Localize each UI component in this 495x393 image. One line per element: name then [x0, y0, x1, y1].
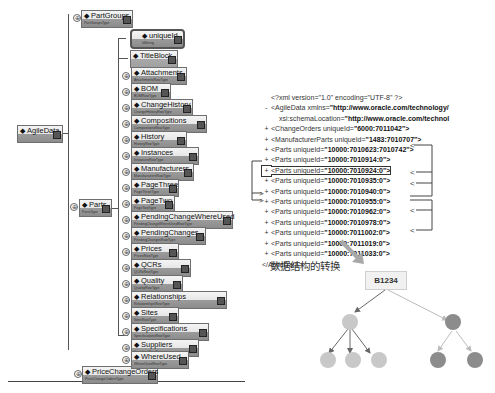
expand-icon[interactable]: ⊕ [122, 296, 130, 304]
diamond-icon: ◆ [134, 133, 139, 140]
xml-reference-arrows: < < < < < > > [250, 140, 495, 240]
xml-line: xsi:schemaLocation="http://www.oracle.co… [262, 114, 449, 124]
tree-leaf-light[interactable] [345, 352, 361, 368]
element-type-icon [184, 169, 192, 177]
diamond-icon: ◆ [134, 101, 139, 108]
element-type-icon [161, 89, 169, 97]
diamond-icon: ◆ [134, 325, 139, 332]
element-type-icon [189, 345, 197, 353]
svg-text:<: < [410, 206, 415, 215]
tree-node-light[interactable] [342, 314, 358, 330]
tree-leaf-dark[interactable] [467, 352, 483, 368]
expand-icon[interactable]: ⊕ [122, 120, 130, 128]
expand-icon[interactable]: ⊕ [122, 200, 130, 208]
expand-icon[interactable]: ⊕ [122, 136, 130, 144]
tree-leaf-light[interactable] [371, 352, 387, 368]
expand-icon[interactable]: ⊕ [74, 370, 82, 378]
diamond-icon: ◆ [134, 261, 139, 268]
node-agiledata[interactable]: ◆AgileData [17, 125, 63, 143]
element-type-icon [174, 36, 182, 44]
node-type: PriceChangeOrdersType [85, 377, 147, 382]
diamond-icon: ◆ [134, 149, 139, 156]
element-type-icon [217, 297, 225, 305]
svg-text:<: < [410, 141, 415, 150]
collapse-toggle[interactable]: - [262, 103, 271, 113]
node-type: PartGroupsType [84, 21, 122, 26]
expand-icon[interactable]: ⊕ [73, 14, 81, 22]
element-type-icon [223, 217, 231, 225]
element-type-icon [169, 249, 177, 257]
diamond-icon: ◆ [134, 69, 139, 76]
xml-line[interactable]: -<AgileData xmlns="http://www.oracle.com… [262, 103, 449, 113]
element-type-icon [102, 205, 110, 213]
node-label: Manufacturers [141, 164, 189, 173]
node-label: Instances [141, 148, 173, 157]
node-label: Specifications [141, 324, 187, 333]
diamond-icon: ◆ [134, 213, 139, 220]
expand-icon[interactable]: ⊕ [122, 312, 130, 320]
node-partgroups[interactable]: ◆PartGroups PartGroupsType [81, 10, 133, 28]
tree-leaf-light[interactable] [320, 352, 336, 368]
parts-connector [112, 208, 118, 209]
expand-icon[interactable]: ⊕ [122, 280, 130, 288]
expand-icon[interactable]: ⊕ [122, 104, 130, 112]
tree-leaf-dark[interactable] [430, 352, 446, 368]
element-type-icon [199, 329, 207, 337]
node-type: PartsType [82, 210, 101, 215]
node-whereused[interactable]: ◆WhereUsed WhereUsedRowType [131, 351, 189, 369]
svg-text:<: < [410, 168, 415, 177]
element-type-icon [183, 105, 191, 113]
element-type-icon [177, 73, 185, 81]
node-label: PendingChangeWhereUsed [141, 212, 234, 221]
expand-icon[interactable]: ⊕ [70, 203, 78, 211]
expand-icon[interactable]: ⊕ [122, 72, 130, 80]
expand-icon[interactable]: ⊕ [122, 184, 130, 192]
element-type-icon [168, 56, 176, 64]
expand-toggle[interactable]: + [262, 239, 271, 249]
diamond-icon: ◆ [134, 353, 139, 360]
diamond-icon: ◆ [134, 245, 139, 252]
diamond-icon: ◆ [85, 368, 90, 375]
expand-icon[interactable]: ⊕ [122, 248, 130, 256]
diamond-icon: ◆ [134, 341, 139, 348]
diamond-icon: ◆ [20, 127, 25, 134]
node-uniqueid[interactable]: ◆uniqueId IdString [130, 29, 185, 49]
transform-arrow-icon [338, 238, 368, 268]
expand-icon[interactable]: ⊕ [122, 344, 130, 352]
diamond-icon: ◆ [142, 32, 147, 39]
tree-edges [310, 285, 495, 393]
node-parts[interactable]: ◆Parts PartsType [79, 199, 112, 217]
expand-icon[interactable]: ⊕ [122, 264, 130, 272]
xml-line: <?xml version="1.0" encoding="UTF-8" ?> [262, 93, 449, 103]
node-label: PendingChanges [141, 228, 199, 237]
expand-icon[interactable]: ⊕ [122, 88, 130, 96]
node-type: WhereUsedRowType [134, 362, 178, 367]
transform-caption: 数据结构的转换 [270, 258, 340, 273]
diamond-icon: ◆ [134, 165, 139, 172]
tree-node-dark[interactable] [445, 314, 461, 330]
node-titleblock[interactable]: ◆TitleBlock [130, 50, 178, 68]
element-type-icon [173, 281, 181, 289]
element-type-icon [53, 131, 61, 139]
expand-icon[interactable]: ⊕ [122, 356, 130, 364]
expand-icon[interactable]: ⊕ [122, 328, 130, 336]
expand-icon[interactable]: ⊕ [122, 216, 130, 224]
expand-toggle[interactable]: + [262, 124, 271, 134]
node-label: QCRs [141, 260, 161, 269]
element-type-icon [179, 357, 187, 365]
xml-line[interactable]: +<ChangeOrders uniqueId="6000:7011042"> [262, 124, 449, 134]
node-label: History [141, 132, 164, 141]
node-type: IdString [142, 41, 173, 46]
diamond-icon: ◆ [82, 201, 87, 208]
node-label: BOM [141, 84, 158, 93]
node-label: Relationships [141, 292, 186, 301]
expand-icon[interactable]: ⊕ [122, 152, 130, 160]
expand-icon[interactable]: ⊕ [122, 168, 130, 176]
node-label: Sites [141, 308, 158, 317]
expand-icon[interactable]: ⊕ [122, 232, 130, 240]
parts-branch-line [118, 38, 119, 335]
tree-trunk-line [68, 14, 69, 350]
svg-text:<: < [410, 226, 415, 235]
diamond-icon: ◆ [134, 309, 139, 316]
node-label: Suppliers [141, 340, 172, 349]
